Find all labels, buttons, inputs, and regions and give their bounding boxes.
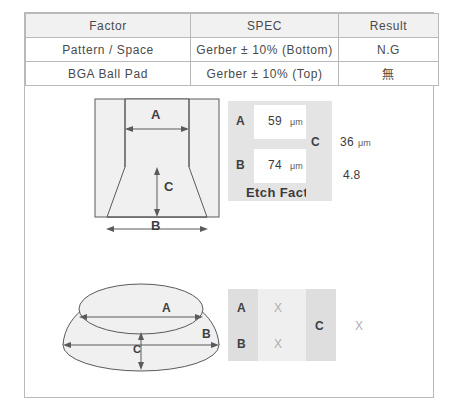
cell-factor-pattern-space: Pattern / Space [26, 38, 191, 62]
bga-label-a: A [237, 301, 246, 315]
etch-label-b: B [236, 158, 245, 172]
bga-label-b: B [237, 337, 246, 351]
etch-label-c: C [311, 135, 320, 149]
column-header-result: Result [339, 14, 439, 38]
bga-value-c: X [355, 319, 363, 333]
etch-diagram-label-a: A [151, 107, 161, 122]
table-row: BGA Ball Pad Gerber ± 10% (Top) 無 [26, 62, 439, 86]
column-header-spec: SPEC [191, 14, 339, 38]
cell-spec-bga-ball-pad: Gerber ± 10% (Top) [191, 62, 339, 86]
spec-table: Factor SPEC Result Pattern / Space Gerbe… [25, 13, 439, 86]
table-row: Pattern / Space Gerber ± 10% (Bottom) N.… [26, 38, 439, 62]
etch-factor-value: 4.8 [343, 168, 361, 182]
etch-diagram-label-b: B [151, 218, 161, 233]
bga-value-a: X [274, 301, 282, 315]
etch-diagram-label-c: C [164, 179, 174, 194]
bga-diagram-label-b: B [202, 327, 211, 341]
etch-unit-a: μm [290, 117, 303, 127]
etch-value-a: 59 [268, 114, 282, 128]
cell-result-bga-ball-pad: 無 [339, 62, 439, 86]
cell-spec-pattern-space: Gerber ± 10% (Bottom) [191, 38, 339, 62]
etch-c-gray-block [306, 101, 332, 201]
column-header-factor: Factor [26, 14, 191, 38]
cell-result-pattern-space: N.G [339, 38, 439, 62]
bga-diagram-label-c: C [133, 343, 141, 355]
cell-factor-bga-ball-pad: BGA Ball Pad [26, 62, 191, 86]
table-header-row: Factor SPEC Result [26, 14, 439, 38]
bga-value-b: X [274, 337, 282, 351]
etch-value-c: 36 [340, 135, 354, 149]
etch-cross-section-diagram: A C B [87, 95, 227, 235]
bga-label-c: C [315, 319, 324, 333]
report-frame: Factor SPEC Result Pattern / Space Gerbe… [24, 12, 434, 398]
bga-ball-pad-diagram: A B C [51, 279, 231, 379]
etch-unit-c: μm [358, 138, 371, 148]
etch-label-a: A [236, 114, 245, 128]
bga-diagram-label-a: A [162, 301, 171, 315]
etch-unit-b: μm [290, 161, 303, 171]
etch-value-b: 74 [268, 158, 282, 172]
diagram-area: A C B A 59 μm B 74 μm Etch Factor C 36 μ… [25, 83, 435, 399]
